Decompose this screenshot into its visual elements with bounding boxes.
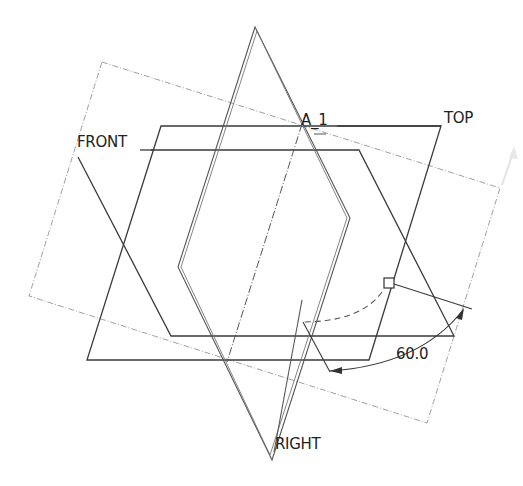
direction-arrow-icon xyxy=(502,146,518,185)
front-plane-label[interactable]: FRONT xyxy=(77,135,127,150)
arrowhead-icon xyxy=(330,367,342,374)
angle-dimension-value[interactable]: 60.0 xyxy=(396,347,428,362)
arrowhead-icon xyxy=(456,308,464,320)
right-plane-label[interactable]: RIGHT xyxy=(275,437,320,452)
cad-viewport[interactable]: FRONT TOP A_1 RIGHT 60.0 xyxy=(0,0,523,486)
right-plane-edge[interactable] xyxy=(178,27,350,460)
dimension-anchor-square[interactable] xyxy=(384,278,394,288)
datum-planes-graphic xyxy=(0,0,523,486)
front-plane-edge[interactable] xyxy=(78,150,454,336)
top-plane-label[interactable]: TOP xyxy=(444,111,473,126)
axis-a1[interactable] xyxy=(227,124,302,362)
axis-label[interactable]: A_1 xyxy=(301,113,327,128)
